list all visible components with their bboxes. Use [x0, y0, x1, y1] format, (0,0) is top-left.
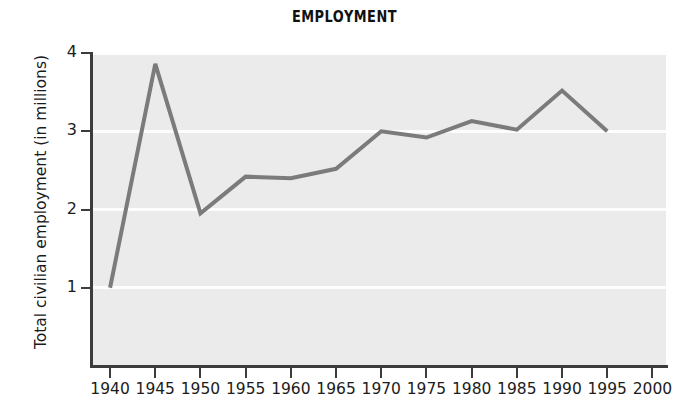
- plot-area: [92, 53, 666, 366]
- x-tick-label-2000: 2000: [626, 382, 678, 398]
- x-tick-label-1955: 1955: [220, 382, 272, 398]
- x-tick-mark-1945: [154, 367, 156, 378]
- x-tick-mark-1965: [335, 367, 337, 378]
- x-tick-mark-1970: [380, 367, 382, 378]
- y-tick-label-3: 3: [49, 122, 77, 138]
- x-tick-mark-1960: [290, 367, 292, 378]
- x-tick-label-1945: 1945: [129, 382, 181, 398]
- x-tick-label-1975: 1975: [400, 382, 452, 398]
- x-tick-mark-1980: [471, 367, 473, 378]
- x-tick-label-1970: 1970: [355, 382, 407, 398]
- x-tick-mark-1940: [109, 367, 111, 378]
- x-tick-label-1940: 1940: [84, 382, 136, 398]
- y-tick-label-1: 1: [49, 279, 77, 295]
- x-tick-mark-1955: [245, 367, 247, 378]
- x-tick-label-1960: 1960: [265, 382, 317, 398]
- chart-title: EMPLOYMENT: [48, 8, 641, 26]
- x-tick-label-1965: 1965: [310, 382, 362, 398]
- y-axis-title: Total civilian employment (in millions): [32, 22, 50, 382]
- x-tick-mark-2000: [651, 367, 653, 378]
- x-tick-label-1990: 1990: [536, 382, 588, 398]
- y-tick-mark-1: [81, 287, 91, 289]
- x-tick-mark-1950: [199, 367, 201, 378]
- chart-figure: EMPLOYMENT Total civilian employment (in…: [0, 0, 689, 416]
- y-tick-mark-2: [81, 209, 91, 211]
- x-axis-spine: [90, 365, 668, 368]
- x-tick-label-1995: 1995: [581, 382, 633, 398]
- data-series-line: [92, 53, 666, 366]
- x-tick-mark-1990: [561, 367, 563, 378]
- x-tick-label-1985: 1985: [491, 382, 543, 398]
- x-tick-mark-1975: [425, 367, 427, 378]
- x-tick-mark-1985: [516, 367, 518, 378]
- x-tick-label-1950: 1950: [174, 382, 226, 398]
- y-tick-label-2: 2: [49, 201, 77, 217]
- x-tick-mark-1995: [606, 367, 608, 378]
- x-tick-label-1980: 1980: [446, 382, 498, 398]
- y-tick-label-4: 4: [49, 44, 77, 60]
- y-tick-mark-3: [81, 130, 91, 132]
- y-tick-mark-4: [81, 52, 91, 54]
